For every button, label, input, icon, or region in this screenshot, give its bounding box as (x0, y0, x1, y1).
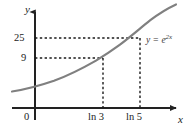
origin-label: 0 (24, 112, 29, 123)
x-axis-label: x (178, 114, 183, 125)
y-tick-label-25: 25 (14, 33, 25, 44)
x-tick-label-ln5: ln 5 (126, 112, 142, 123)
curve-equation-label: y = e2x (146, 36, 172, 46)
exponential-graph-figure: y x 25 9 0 ln 3 ln 5 y = e2x (0, 0, 191, 132)
y-tick-label-9: 9 (21, 53, 26, 64)
curve-equation-base: y = e (146, 35, 166, 45)
exponential-curve (12, 5, 176, 92)
x-tick-label-ln3: ln 3 (88, 112, 104, 123)
curve-equation-exponent: 2x (166, 33, 173, 41)
y-axis-label: y (25, 4, 30, 15)
